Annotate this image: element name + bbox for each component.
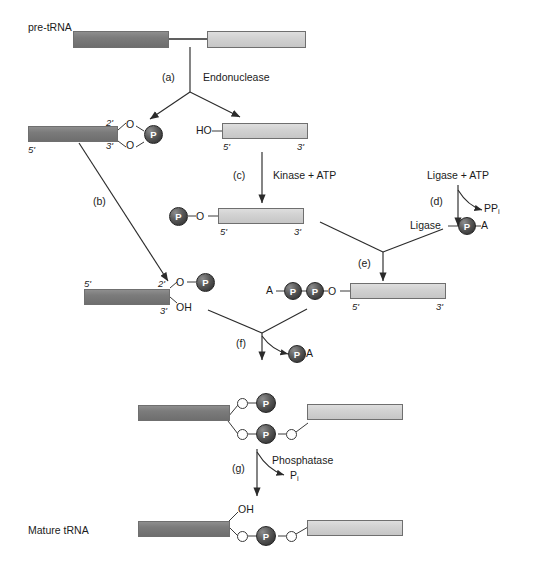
cleaved-5prime-5label: 5' [28,145,35,155]
step-b-tag: (b) [93,196,106,207]
pre-trna-3prime-exon [207,31,306,48]
kinase-O-label: O [196,210,204,222]
kinase-atp-label: Kinase + ATP [273,170,336,181]
cleaved-3prime-3label: 3' [297,142,304,152]
step-d-tag: (d) [430,196,443,207]
mature-trna-label: Mature tRNA [28,525,89,536]
step-g-tag: (g) [232,463,245,474]
cleaved-3prime-exon [222,123,308,139]
kinase-product-3label: 3' [294,227,301,237]
bproduct-OH-label: OH [176,301,192,313]
connector-overlay [0,0,533,563]
mature-phosphate-bridge: P [256,526,276,546]
cyclic-O-bottom: O [126,139,134,151]
cleaved-5prime-exon [28,126,118,142]
app-phosphate-1: P [284,282,302,300]
app-O-label: O [328,285,336,297]
mature-5prime-exon [138,521,230,537]
ho-label: HO [196,124,212,136]
cleaved-3prime-5label: 5' [223,142,230,152]
ligase-phosphate-circle: P [458,217,476,235]
app-5label: 5' [352,302,359,312]
phosphatase-label: Phosphatase [272,455,333,466]
mature-O-right [286,531,297,542]
tRNA-splicing-diagram: pre-tRNA (a) Endonuclease 5' 2' 3' O O P… [0,0,533,563]
joined-O-mid [237,429,248,440]
bproduct-2prime-label: 2' [158,279,165,289]
joined-O-right [286,429,297,440]
mature-3prime-exon [307,520,403,536]
app-3label: 3' [436,302,443,312]
bproduct-phosphate-circle: P [196,273,215,292]
bproduct-3prime-label: 3' [160,306,167,316]
app-adenosine-label: A [266,285,273,296]
step-f-tag: (f) [236,338,246,349]
kinase-product-exon [218,208,304,224]
joined-phosphate-2prime: P [256,393,276,413]
joined-O-top [237,398,248,409]
cyclic-3prime-label: 3' [106,141,113,151]
pa-byproduct-adenosine: A [306,348,313,359]
bproduct-5label: 5' [84,279,91,289]
step-e-tag: (e) [358,258,371,269]
mature-OH-label: OH [238,503,254,515]
bproduct-5prime-exon [84,289,170,305]
bproduct-O-label: O [176,276,184,288]
pre-trna-5prime-exon [73,31,169,48]
arrow-step-a [150,47,240,119]
pa-byproduct-phosphate: P [288,345,306,363]
joined-phosphate-bridge: P [256,424,276,444]
ppi-label: PPi [484,203,500,216]
endonuclease-label: Endonuclease [203,72,270,83]
step-a-tag: (a) [162,72,175,83]
ligase-adenosine-label: A [481,220,488,231]
pi-label: Pi [290,470,299,483]
cyclic-2prime-label: 2' [106,118,113,128]
app-phosphate-2: P [306,282,324,300]
cyclic-phosphate-circle: P [144,125,163,144]
joined-3prime-exon [307,404,403,420]
cyclic-O-top: O [126,118,134,130]
pre-trna-label: pre-tRNA [28,22,72,33]
step-c-tag: (c) [233,170,245,181]
ligase-atp-label: Ligase + ATP [427,170,489,181]
kinase-phosphate-circle: P [169,207,188,226]
app-3prime-exon [350,283,446,299]
mature-O-left [237,531,248,542]
ligase-label: Ligase [410,220,441,231]
kinase-product-5label: 5' [220,227,227,237]
arrow-step-b [79,143,168,281]
joined-5prime-exon [138,405,230,421]
